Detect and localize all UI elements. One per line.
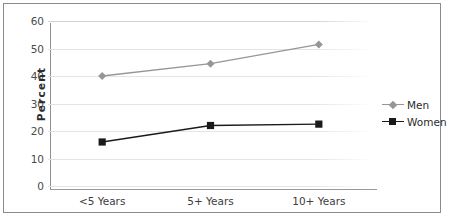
data-point-marker (207, 122, 214, 129)
legend-label: Women (404, 116, 447, 128)
legend-swatch (389, 118, 396, 125)
data-point-marker (315, 121, 322, 128)
legend-label: Men (404, 99, 429, 111)
square-marker-icon (382, 116, 404, 128)
data-point-marker (98, 72, 106, 80)
series-women (99, 121, 323, 146)
chart-frame: 6050403020100 Percent <5 Years5+ Years10… (3, 3, 441, 213)
series-men (98, 40, 323, 80)
diamond-marker-icon (382, 99, 404, 111)
legend-swatch (389, 100, 397, 108)
legend-item-women[interactable]: Women (382, 113, 448, 130)
data-point-marker (99, 138, 106, 145)
data-point-marker (315, 40, 323, 48)
data-point-marker (207, 60, 215, 68)
legend-item-men[interactable]: Men (382, 96, 448, 113)
chart-legend: MenWomen (382, 96, 448, 130)
